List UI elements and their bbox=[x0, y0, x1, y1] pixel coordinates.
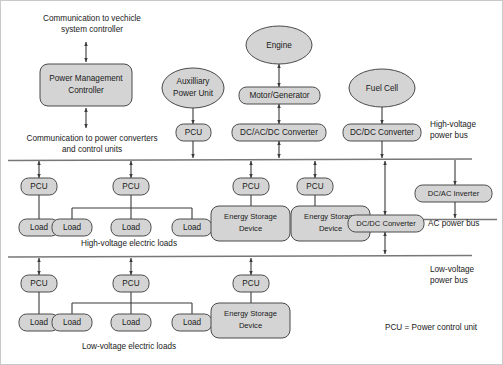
node-hv-pcu-3[interactable] bbox=[233, 178, 269, 195]
node-lv-load-2[interactable] bbox=[52, 314, 92, 331]
node-power-management-controller[interactable] bbox=[40, 64, 132, 106]
caption-communication-to-power-converters-line2: and control units bbox=[62, 145, 122, 154]
node-lv-pcu-1[interactable] bbox=[21, 275, 57, 292]
node-lv-pcu-3[interactable] bbox=[233, 275, 269, 292]
node-hv-pcu-4[interactable] bbox=[297, 178, 333, 195]
caption-communication-to-vehicle-controller-line2: system controller bbox=[61, 25, 123, 34]
caption-communication-to-power-converters-line1: Communication to power converters bbox=[26, 134, 157, 143]
connector-lv-pcu-2-to-loads bbox=[72, 292, 192, 314]
caption-communication-to-vehicle-controller-line1: Communication to vechicle bbox=[43, 14, 141, 23]
connector-hv-pcu-2-to-loads bbox=[72, 195, 192, 219]
node-dc-ac-inverter[interactable] bbox=[415, 185, 492, 202]
node-fuel-cell[interactable] bbox=[349, 69, 415, 107]
node-hv-load-2[interactable] bbox=[52, 219, 92, 236]
node-hv-load-3[interactable] bbox=[111, 219, 151, 236]
node-dc-ac-dc-converter[interactable] bbox=[232, 124, 326, 141]
node-auxiliary-power-unit[interactable] bbox=[162, 68, 224, 108]
caption-high-voltage-electric-loads: High-voltage electric loads bbox=[81, 239, 177, 248]
node-engine[interactable] bbox=[246, 26, 312, 64]
node-hv-load-4[interactable] bbox=[172, 219, 212, 236]
node-lv-load-4[interactable] bbox=[172, 314, 212, 331]
caption-low-voltage-power-bus-line1: Low-voltage bbox=[430, 265, 475, 274]
node-motor-generator[interactable] bbox=[239, 87, 320, 104]
caption-low-voltage-electric-loads: Low-voltage electric loads bbox=[82, 342, 176, 351]
node-lv-load-3[interactable] bbox=[111, 314, 151, 331]
caption-ac-power-bus: AC power bus bbox=[428, 219, 479, 228]
power-architecture-diagram: Power Management Controller Communicatio… bbox=[0, 0, 503, 365]
node-hv-pcu-2[interactable] bbox=[113, 178, 149, 195]
caption-high-voltage-power-bus-line2: power bus bbox=[430, 131, 468, 140]
legend-pcu-definition: PCU = Power control unit bbox=[385, 323, 478, 332]
diagram-canvas: Power Management Controller Communicatio… bbox=[0, 0, 503, 365]
node-lv-energy-storage-device[interactable] bbox=[211, 303, 290, 338]
high-voltage-power-bus-line bbox=[8, 159, 472, 161]
node-lv-pcu-2[interactable] bbox=[113, 275, 149, 292]
node-hv-energy-storage-device-1[interactable] bbox=[211, 206, 290, 241]
low-voltage-power-bus-line bbox=[8, 256, 472, 258]
node-hv-pcu-1[interactable] bbox=[21, 178, 57, 195]
caption-low-voltage-power-bus-line2: power bus bbox=[430, 276, 468, 285]
node-apu-pcu[interactable] bbox=[176, 124, 211, 141]
node-fuel-cell-dc-dc-converter[interactable] bbox=[343, 124, 421, 141]
node-bus-dc-dc-converter[interactable] bbox=[348, 215, 424, 232]
caption-high-voltage-power-bus-line1: High-voltage bbox=[430, 120, 476, 129]
